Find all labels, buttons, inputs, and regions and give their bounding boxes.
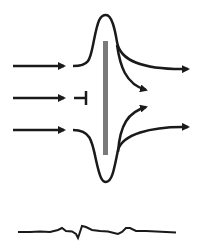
inhibition-bar-icon bbox=[74, 91, 86, 105]
recording-trace bbox=[18, 226, 176, 238]
lower-trough-curve bbox=[73, 127, 188, 182]
diagram-svg bbox=[0, 0, 201, 250]
barrier-bar bbox=[103, 41, 108, 155]
upper-peak-curve bbox=[73, 15, 188, 69]
lower-branch-curve bbox=[118, 107, 146, 152]
diagram-canvas bbox=[0, 0, 201, 250]
